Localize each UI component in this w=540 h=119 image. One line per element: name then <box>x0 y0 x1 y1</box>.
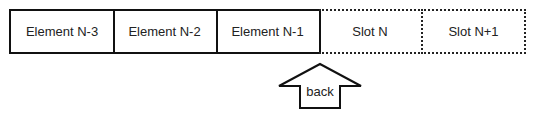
back-pointer-arrow-icon <box>0 0 540 119</box>
back-pointer-label: back <box>300 84 340 99</box>
